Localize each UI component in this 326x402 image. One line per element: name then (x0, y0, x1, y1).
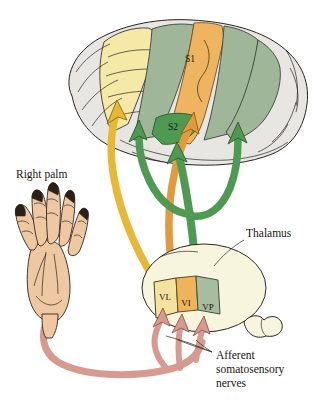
afferent-label-line1: Afferent (216, 349, 256, 361)
afferent-label-line2: somatosensory (216, 363, 285, 376)
nucleus-vi-label: VI (181, 298, 191, 308)
nucleus-vp-label: VP (202, 302, 214, 312)
thalamus-label: Thalamus (246, 227, 292, 239)
nucleus-vl-label: VL (159, 292, 171, 302)
figure-container: S1 S2 (0, 0, 326, 402)
thalamus: VL VI VP (142, 244, 282, 337)
cerebellum-lobes (244, 316, 282, 338)
s1-label: S1 (185, 54, 195, 64)
nerve-branch-vp (196, 330, 202, 360)
wrist (42, 314, 58, 338)
afferent-label-line3: nerves (216, 377, 247, 389)
palm (27, 240, 70, 320)
brain: S1 S2 (69, 20, 308, 169)
neuroanatomy-diagram: S1 S2 (0, 0, 326, 402)
s2-label: S2 (168, 122, 178, 132)
right-palm-hand (15, 183, 88, 338)
nerve-branch-vl (155, 318, 169, 370)
nerve-branch-vi (179, 328, 181, 368)
right-palm-label: Right palm (16, 168, 67, 181)
